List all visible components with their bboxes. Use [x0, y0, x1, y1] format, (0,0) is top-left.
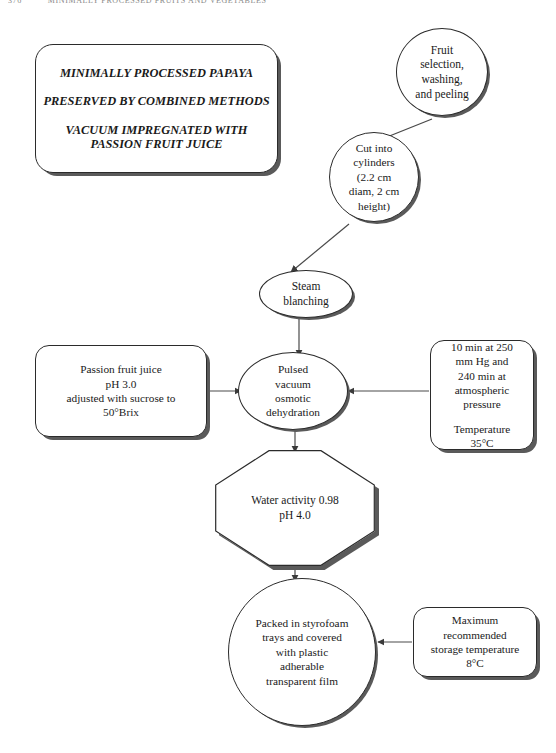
node-line: recommended: [420, 628, 530, 642]
connector-cut-to-blanching: [291, 224, 349, 272]
node-pulsed-vacuum-osmotic-dehydration: Pulsed vacuum osmotic dehydration: [238, 352, 348, 430]
title-line-3a: VACUUM IMPREGNATED WITH: [42, 123, 271, 137]
spacer: [437, 412, 527, 422]
node-pressure-conditions: 10 min at 250 mm Hg and 240 min at atmos…: [430, 340, 534, 450]
node-line: diam, 2 cm: [336, 184, 412, 198]
node-line: 240 min at: [437, 369, 527, 383]
node-line: blanching: [266, 294, 346, 309]
title-line-3b: PASSION FRUIT JUICE: [42, 137, 271, 151]
node-line: trays and covered: [235, 630, 369, 644]
page-number: 376: [8, 0, 22, 5]
node-line: adjusted with sucrose to: [42, 391, 200, 405]
node-line: adherable: [235, 659, 369, 673]
node-line: selection,: [403, 57, 481, 72]
node-storage-temperature: Maximum recommended storage temperature …: [413, 607, 537, 677]
running-header: 376MINIMALLY PROCESSED FRUITS AND VEGETA…: [8, 0, 328, 5]
node-line: Temperature: [437, 422, 527, 436]
node-line: mm Hg and: [437, 354, 527, 368]
node-line: 35°C: [437, 436, 527, 450]
node-product-properties: Water activity 0.98 pH 4.0: [215, 450, 375, 566]
node-line: 10 min at 250: [437, 340, 527, 354]
node-line: and peeling: [403, 87, 481, 102]
figure-page: 376MINIMALLY PROCESSED FRUITS AND VEGETA…: [0, 0, 556, 753]
node-line: pressure: [437, 397, 527, 411]
node-line: washing,: [403, 72, 481, 87]
node-line: 50°Brix: [42, 405, 200, 419]
node-line: Steam: [266, 279, 346, 294]
node-line: height): [336, 199, 412, 213]
node-line: Maximum: [420, 613, 530, 627]
node-fruit-selection: Fruit selection, washing, and peeling: [396, 28, 488, 116]
node-line: (2.2 cm: [336, 170, 412, 184]
node-line: Packed in styrofoam: [235, 616, 369, 630]
title-line-2: PRESERVED BY COMBINED METHODS: [42, 94, 271, 108]
node-line: transparent film: [235, 674, 369, 688]
title-box: MINIMALLY PROCESSED PAPAYA PRESERVED BY …: [35, 44, 278, 173]
node-line: Pulsed: [245, 362, 341, 376]
node-line: storage temperature: [420, 642, 530, 656]
node-line: Water activity 0.98: [221, 493, 369, 508]
node-line: 8°C: [420, 656, 530, 670]
node-packaging: Packed in styrofoam trays and covered wi…: [228, 578, 376, 726]
node-steam-blanching: Steam blanching: [259, 270, 353, 318]
node-line: pH 3.0: [42, 377, 200, 391]
node-line: dehydration: [245, 405, 341, 419]
node-line: Passion fruit juice: [42, 362, 200, 376]
node-line: with plastic: [235, 645, 369, 659]
header-title: MINIMALLY PROCESSED FRUITS AND VEGETABLE…: [48, 0, 267, 5]
node-line: pH 4.0: [221, 508, 369, 523]
node-cut-into-cylinders: Cut into cylinders (2.2 cm diam, 2 cm he…: [329, 132, 419, 222]
node-line: osmotic: [245, 391, 341, 405]
node-line: Cut into: [336, 141, 412, 155]
node-line: vacuum: [245, 377, 341, 391]
node-passion-fruit-juice: Passion fruit juice pH 3.0 adjusted with…: [35, 345, 207, 437]
node-line: atmospheric: [437, 383, 527, 397]
title-line-1: MINIMALLY PROCESSED PAPAYA: [42, 66, 271, 80]
node-line: cylinders: [336, 155, 412, 169]
node-line: Fruit: [403, 43, 481, 58]
